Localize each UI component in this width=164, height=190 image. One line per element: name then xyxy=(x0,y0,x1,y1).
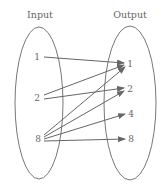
arrow-1-to-1 xyxy=(44,57,124,63)
output-value: 1 xyxy=(127,59,133,69)
input-heading: Input xyxy=(27,9,53,20)
arrow-8-to-4 xyxy=(44,114,125,139)
input-set-ellipse xyxy=(15,27,63,179)
output-value: 2 xyxy=(127,84,133,94)
output-set-ellipse xyxy=(104,26,156,180)
input-value: 8 xyxy=(35,134,41,144)
output-value: 4 xyxy=(128,109,134,119)
output-value: 8 xyxy=(128,134,134,144)
mapping-diagram: Input Output 1 2 8 1 2 4 8 xyxy=(0,0,164,190)
mapping-arrows xyxy=(44,57,125,141)
input-values: 1 2 8 xyxy=(34,52,41,144)
arrow-8-to-1 xyxy=(44,67,125,135)
input-value: 2 xyxy=(34,93,40,103)
arrow-8-to-8 xyxy=(44,139,125,141)
input-value: 1 xyxy=(34,52,40,62)
arrow-8-to-2 xyxy=(44,91,124,137)
arrow-2-to-1 xyxy=(44,65,124,95)
output-heading: Output xyxy=(113,9,147,20)
output-values: 1 2 4 8 xyxy=(127,59,134,144)
